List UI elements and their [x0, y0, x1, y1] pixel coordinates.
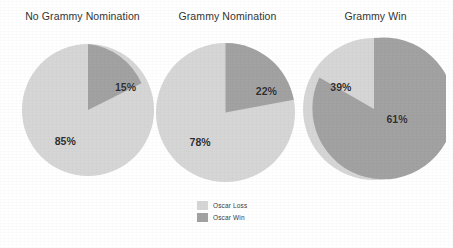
- panel-grammy-nomination: Grammy Nomination 22% 78%: [155, 0, 300, 200]
- panel-grammy-win: Grammy Win 39% 61%: [298, 0, 453, 200]
- legend-swatch-oscar-loss-icon: [197, 201, 208, 210]
- panel-title-no-grammy-nomination: No Grammy Nomination: [0, 10, 165, 22]
- pie-svg-3: [302, 37, 446, 181]
- panel-title-grammy-win: Grammy Win: [298, 10, 453, 22]
- pie-grammy-win: 39% 61%: [302, 37, 446, 181]
- pie-svg-2: [155, 42, 296, 183]
- slice-label-oscar-loss-2: 78%: [190, 136, 211, 148]
- slice-label-oscar-loss-3: 39%: [330, 81, 351, 93]
- panel-no-grammy-nomination: No Grammy Nomination 15% 85%: [0, 0, 165, 200]
- slice-label-oscar-win-1: 15%: [115, 81, 136, 93]
- legend: Oscar Loss Oscar Win: [197, 200, 247, 222]
- legend-label-oscar-loss: Oscar Loss: [213, 201, 247, 210]
- slice-label-oscar-win-3: 61%: [387, 113, 408, 125]
- pie-chart-figure: No Grammy Nomination 15% 85% Grammy Nomi…: [0, 0, 453, 248]
- legend-swatch-oscar-win-icon: [197, 213, 208, 222]
- slice-label-oscar-loss-1: 85%: [55, 135, 76, 147]
- pie-svg-1: [21, 43, 155, 177]
- legend-item-oscar-win[interactable]: Oscar Win: [197, 212, 247, 222]
- legend-label-oscar-win: Oscar Win: [213, 213, 245, 222]
- slice-label-oscar-win-2: 22%: [256, 85, 277, 97]
- panel-title-grammy-nomination: Grammy Nomination: [155, 10, 300, 22]
- pie-no-grammy-nomination: 15% 85%: [21, 43, 155, 177]
- pie-grammy-nomination: 22% 78%: [155, 42, 296, 183]
- legend-item-oscar-loss[interactable]: Oscar Loss: [197, 200, 247, 210]
